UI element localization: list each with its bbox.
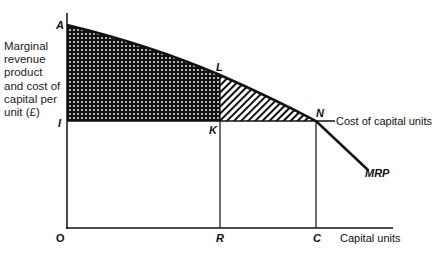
mrp-curve-label: MRP	[365, 167, 389, 179]
cost-line-label: Cost of capital units	[336, 115, 432, 127]
y-axis-label: Marginal revenue product and cost of cap…	[4, 40, 64, 119]
point-n-label: N	[316, 107, 324, 119]
point-l-label: L	[216, 61, 223, 73]
diagram-canvas	[0, 0, 438, 257]
x-axis-label: Capital units	[340, 232, 401, 244]
point-r-label: R	[216, 232, 224, 244]
point-k-label: K	[209, 124, 217, 136]
point-c-label: C	[313, 232, 321, 244]
point-a-label: A	[56, 19, 64, 31]
region-aikl	[67, 25, 220, 121]
point-i-label: I	[58, 117, 61, 129]
origin-label: O	[56, 232, 65, 244]
